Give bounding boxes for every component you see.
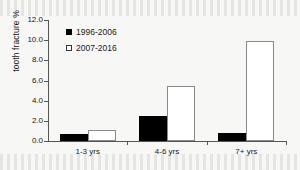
bar-2-1 <box>246 41 274 141</box>
y-tick-label-0: 0.0 <box>15 136 43 145</box>
bar-1-0 <box>139 116 167 141</box>
legend-item-1: 2007-2016 <box>66 40 117 56</box>
legend-item-0: 1996-2006 <box>66 24 117 40</box>
legend-swatch-filled-square-icon <box>66 29 72 35</box>
y-tick-6 <box>44 20 48 21</box>
x-category-label-2: 7+ yrs <box>207 147 286 156</box>
y-tick-label-3: 6.0 <box>15 76 43 85</box>
bar-1-1 <box>167 86 195 141</box>
legend-label-1: 2007-2016 <box>76 43 117 53</box>
x-separator-1 <box>127 141 128 145</box>
bar-2-0 <box>218 133 246 141</box>
y-tick-label-1: 2.0 <box>15 116 43 125</box>
x-separator-2 <box>207 141 208 145</box>
x-separator-3 <box>286 141 287 145</box>
y-tick-5 <box>44 40 48 41</box>
y-tick-1 <box>44 121 48 122</box>
y-tick-0 <box>44 141 48 142</box>
chart-legend: 1996-2006 2007-2016 <box>66 24 117 56</box>
bar-chart-figure: tooth fracture % 0.02.04.06.08.010.012.0… <box>0 0 300 170</box>
legend-label-0: 1996-2006 <box>76 27 117 37</box>
y-tick-label-2: 4.0 <box>15 96 43 105</box>
x-category-label-1: 4-6 yrs <box>127 147 206 156</box>
y-tick-4 <box>44 60 48 61</box>
bar-0-1 <box>88 130 116 141</box>
y-tick-label-6: 12.0 <box>15 15 43 24</box>
y-tick-3 <box>44 81 48 82</box>
bar-0-0 <box>60 134 88 141</box>
y-axis-line <box>48 20 49 141</box>
legend-swatch-open-square-icon <box>66 45 72 51</box>
y-tick-2 <box>44 101 48 102</box>
x-axis-line <box>48 141 286 142</box>
y-tick-label-5: 10.0 <box>15 35 43 44</box>
y-tick-label-4: 8.0 <box>15 55 43 64</box>
x-category-label-0: 1-3 yrs <box>48 147 127 156</box>
